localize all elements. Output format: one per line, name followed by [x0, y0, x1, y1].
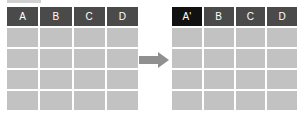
cell	[267, 91, 297, 110]
top-decorative-bar	[7, 0, 41, 3]
cell	[236, 70, 266, 89]
cell	[74, 91, 105, 110]
cell	[7, 28, 38, 47]
cell	[40, 28, 71, 47]
cell	[236, 28, 266, 47]
cell	[7, 91, 38, 110]
header-b: B	[204, 7, 234, 26]
header-c: C	[236, 7, 266, 26]
cell	[74, 70, 105, 89]
header-d: D	[107, 7, 138, 26]
cell	[204, 49, 234, 68]
cell	[204, 28, 234, 47]
cell	[267, 28, 297, 47]
header-a: A	[7, 7, 38, 26]
header-b: B	[40, 7, 71, 26]
table-before: A B C D	[7, 7, 138, 110]
header-d: D	[267, 7, 297, 26]
cell	[74, 28, 105, 47]
header-a-prime: A'	[172, 7, 202, 26]
cell	[204, 70, 234, 89]
cell	[107, 49, 138, 68]
cell	[172, 28, 202, 47]
cell	[7, 70, 38, 89]
cell	[172, 91, 202, 110]
cell	[107, 28, 138, 47]
header-c: C	[74, 7, 105, 26]
cell	[107, 91, 138, 110]
table-after: A' B C D	[172, 7, 297, 110]
cell	[172, 49, 202, 68]
cell	[40, 49, 71, 68]
cell	[267, 49, 297, 68]
cell	[40, 91, 71, 110]
arrow-right-icon	[139, 52, 169, 68]
cell	[74, 49, 105, 68]
cell	[236, 49, 266, 68]
cell	[40, 70, 71, 89]
cell	[107, 70, 138, 89]
cell	[7, 49, 38, 68]
cell	[267, 70, 297, 89]
cell	[172, 70, 202, 89]
cell	[204, 91, 234, 110]
cell	[236, 91, 266, 110]
